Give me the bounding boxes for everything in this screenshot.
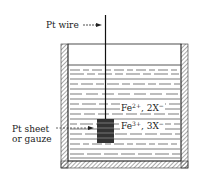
counter-ion-text: , 3X — [141, 121, 159, 131]
fe2-label: Fe2+, 2X− — [120, 103, 165, 113]
pt-sheet-label: Pt sheet — [12, 124, 49, 134]
pt-sheet-label-2: or gauze — [12, 134, 52, 144]
counter-ion-charge: − — [159, 120, 164, 127]
counter-ion-charge: − — [159, 102, 164, 109]
fe3-label: Fe3+, 3X− — [120, 121, 165, 131]
arrow-icon — [83, 23, 102, 27]
pt-sheet — [97, 119, 114, 143]
ion-text: Fe — [121, 103, 132, 113]
counter-ion-text: , 2X — [141, 103, 159, 113]
electrode-diagram — [0, 0, 198, 179]
ion-charge: 2+ — [132, 102, 141, 109]
ion-charge: 3+ — [132, 120, 141, 127]
ion-text: Fe — [121, 121, 132, 131]
pt-wire-label: Pt wire — [46, 20, 79, 30]
